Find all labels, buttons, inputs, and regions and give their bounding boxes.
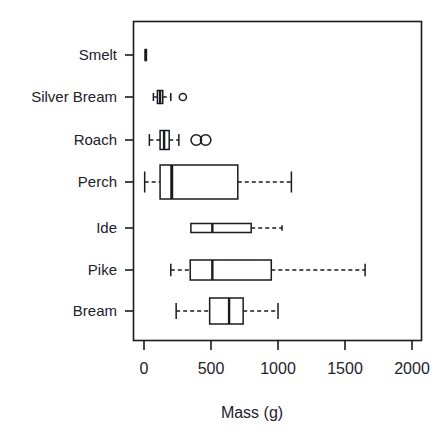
boxplot-svg: Smelt Silver Bream Roach Perch Ide Pike … [0,0,446,444]
category-axis-labels: Smelt Silver Bream Roach Perch Ide Pike … [31,46,118,319]
cat-label-roach: Roach [74,131,117,148]
xtick-label-1000: 1000 [260,360,296,377]
box-iqr [191,224,251,233]
cat-label-bream: Bream [73,302,117,319]
cat-label-ide: Ide [96,219,117,236]
cat-label-smelt: Smelt [79,46,118,63]
xtick-label-1500: 1500 [327,360,363,377]
box-iqr [210,298,244,324]
value-axis-tick-labels: 0 500 1000 1500 2000 [140,360,430,377]
box-iqr [190,260,271,280]
cat-label-perch: Perch [78,173,117,190]
category-axis-ticks [125,55,133,311]
x-axis-title: Mass (g) [221,404,283,421]
xtick-label-500: 500 [198,360,225,377]
xtick-label-2000: 2000 [394,360,430,377]
boxplot-figure: Smelt Silver Bream Roach Perch Ide Pike … [0,0,446,444]
value-axis-ticks [144,341,412,350]
cat-label-pike: Pike [88,261,117,278]
cat-label-silver-bream: Silver Bream [31,88,117,105]
xtick-label-0: 0 [140,360,149,377]
boxplot-smelt [145,50,146,61]
